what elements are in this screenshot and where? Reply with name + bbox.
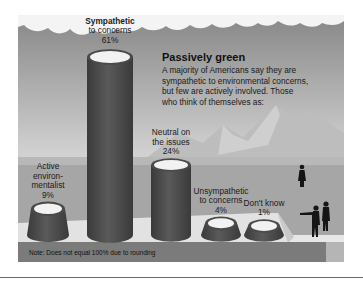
- subtitle-line: but few are actively involved. Those: [162, 86, 294, 96]
- subtitle-line: sympathetic to environmental concerns,: [162, 76, 308, 86]
- cylinder-top: [208, 218, 234, 228]
- category-label-line: to concerns: [89, 25, 132, 35]
- footer-band-edge: [326, 242, 344, 262]
- value-label: 4%: [215, 205, 228, 215]
- category-label-line: Don't know: [244, 198, 286, 208]
- cylinder-bar: [27, 202, 69, 243]
- cylinder-body: [151, 165, 191, 242]
- cylinder-bar: [87, 49, 133, 243]
- cylinder-top: [251, 221, 277, 231]
- value-label: 1%: [258, 207, 271, 217]
- footnote: Note: Does not equal 100% due to roundin…: [29, 249, 156, 257]
- category-label-line: Neutral on: [152, 127, 191, 137]
- chart-title: Passively green: [162, 51, 245, 63]
- cylinder-bar: [151, 158, 191, 242]
- cylinder-top: [34, 203, 62, 214]
- category-label-line: to concerns: [200, 195, 243, 205]
- bottom-divider: [0, 277, 363, 278]
- cylinder-top: [90, 51, 130, 63]
- category-label-line: Unsympathetic: [194, 186, 249, 196]
- category-label-line: environ-: [33, 171, 63, 181]
- infographic-panel: Note: Does not equal 100% due to roundin…: [18, 15, 344, 262]
- cylinder-bar: [201, 217, 241, 242]
- category-label-line: mentalist: [31, 180, 65, 190]
- category-label-line: the issues: [152, 137, 189, 147]
- value-label: 24%: [163, 146, 180, 156]
- value-label: 9%: [42, 190, 55, 200]
- cylinder-top: [154, 160, 188, 170]
- value-label: 61%: [102, 35, 119, 45]
- category-label-line: Sympathetic: [85, 16, 135, 26]
- cylinder-body: [87, 57, 133, 243]
- subtitle-line: A majority of Americans say they are: [162, 65, 297, 75]
- category-label-line: Active: [37, 161, 60, 171]
- chart-canvas: Note: Does not equal 100% due to roundin…: [18, 15, 344, 262]
- subtitle-line: who think of themselves as:: [161, 97, 264, 107]
